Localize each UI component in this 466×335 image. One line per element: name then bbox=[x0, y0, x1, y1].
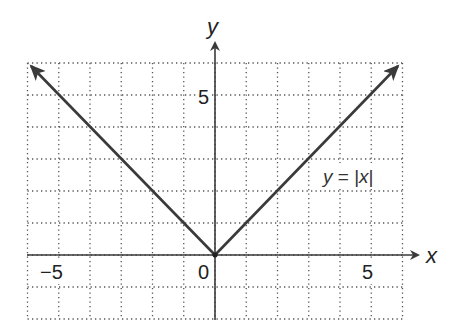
y-tick-5: 5 bbox=[198, 86, 209, 108]
x-tick-neg5: −5 bbox=[40, 261, 63, 283]
x-tick-5: 5 bbox=[362, 261, 373, 283]
y-axis-label: y bbox=[205, 14, 220, 39]
absolute-value-graph: y = |x| 5 −5 0 5 y x bbox=[0, 0, 466, 335]
origin-point bbox=[213, 253, 218, 258]
x-tick-0: 0 bbox=[198, 261, 209, 283]
equation-label: y = |x| bbox=[321, 166, 374, 187]
x-axis-label: x bbox=[425, 243, 438, 268]
